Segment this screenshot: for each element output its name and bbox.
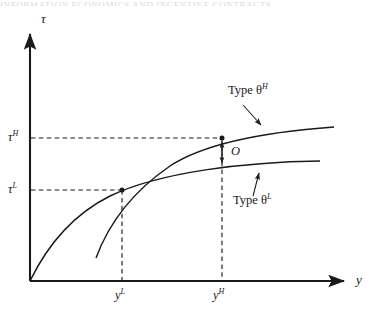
y-tick-label-tau-low: τL xyxy=(8,183,17,196)
y-tick-label-tau-high: τH xyxy=(8,131,18,144)
type-theta-low-label-sup: L xyxy=(267,192,271,201)
intersection-point xyxy=(120,188,125,193)
x-axis-title: y xyxy=(356,273,362,286)
type-theta-high-leader-arrow xyxy=(243,105,261,125)
figure-canvas: INFORMATION ECONOMICS AND INCENTIVE CONT… xyxy=(0,0,387,319)
figure-graphics xyxy=(0,0,387,319)
x-tick-label-y-low: yL xyxy=(115,289,125,302)
y-tick-label-tau-low-sup: L xyxy=(12,181,16,190)
y-tick-label-tau-high-sup: H xyxy=(12,129,18,138)
type-theta-low-label: Type θL xyxy=(233,194,271,207)
x-tick-label-y-high-sup: H xyxy=(219,287,225,296)
x-tick-label-y-high: yH xyxy=(213,289,224,302)
type-theta-high-curve xyxy=(96,127,334,258)
type-theta-low-label-base: Type θ xyxy=(233,193,267,207)
x-tick-label-y-low-sup: L xyxy=(121,287,125,296)
type-theta-low-curve xyxy=(30,161,320,281)
type-theta-high-label: Type θH xyxy=(228,84,268,97)
type-theta-high-label-sup: H xyxy=(262,82,268,91)
rent-gap-label: O xyxy=(231,145,240,158)
y-axis-title: τ xyxy=(41,12,46,25)
allocation-point-high xyxy=(220,136,225,141)
type-theta-high-label-base: Type θ xyxy=(228,83,262,97)
